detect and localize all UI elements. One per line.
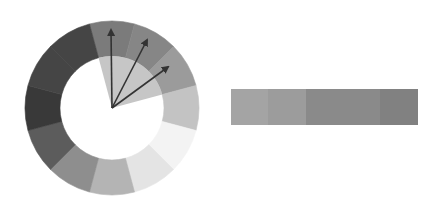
swatch-3	[306, 89, 380, 125]
swatch-4	[380, 89, 418, 125]
swatch-1	[231, 89, 268, 125]
analogous-swatch-bar	[231, 89, 418, 125]
color-wheel	[0, 0, 230, 208]
swatch-2	[268, 89, 306, 125]
arrow-1-icon	[111, 30, 112, 108]
